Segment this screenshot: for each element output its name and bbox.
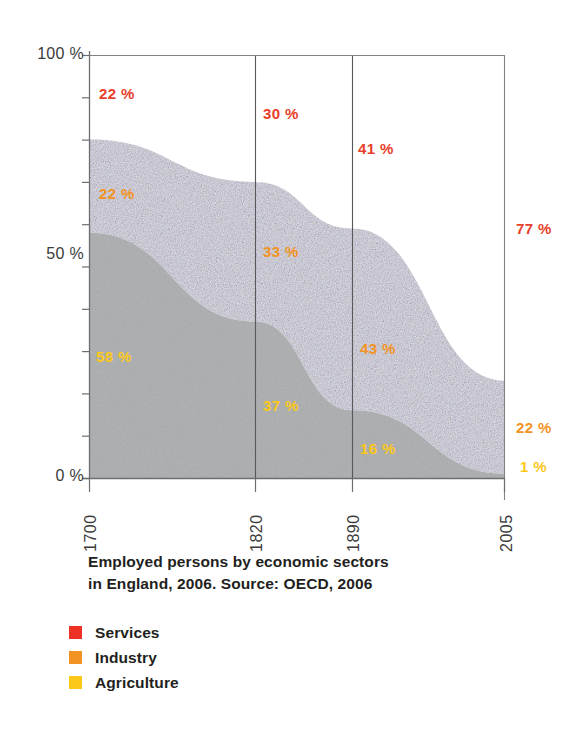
chart-canvas bbox=[0, 0, 577, 520]
plot-area: 100 % 50 % 0 % 1700 1820 1890 2005 22 % … bbox=[0, 0, 577, 520]
caption-line-2: in England, 2006. Source: OECD, 2006 bbox=[88, 573, 518, 595]
y-minor-ticks bbox=[82, 56, 89, 479]
legend-item-services: Services bbox=[69, 620, 179, 645]
x-ticks bbox=[90, 478, 505, 492]
value-label-industry-1820: 33 % bbox=[263, 243, 299, 260]
legend-swatch-industry-icon bbox=[69, 651, 82, 664]
x-tick-label-2005: 2005 bbox=[498, 514, 516, 552]
legend-swatch-services-icon bbox=[69, 626, 82, 639]
value-label-services-1820: 30 % bbox=[263, 105, 299, 122]
chart-legend: Services Industry Agriculture bbox=[69, 620, 179, 695]
legend-item-agriculture: Agriculture bbox=[69, 670, 179, 695]
y-tick-label-50: 50 % bbox=[14, 245, 84, 263]
chart-caption: Employed persons by economic sectors in … bbox=[88, 551, 518, 596]
value-label-services-1700: 22 % bbox=[99, 85, 135, 102]
legend-label-agriculture: Agriculture bbox=[95, 674, 179, 692]
y-tick-label-0: 0 % bbox=[14, 467, 84, 485]
value-label-industry-1890: 43 % bbox=[360, 340, 396, 357]
value-label-agriculture-1820: 37 % bbox=[263, 397, 299, 414]
x-tick-label-1890: 1890 bbox=[345, 514, 363, 552]
legend-label-industry: Industry bbox=[95, 649, 157, 667]
figure-stacked-area-chart: 100 % 50 % 0 % 1700 1820 1890 2005 22 % … bbox=[0, 0, 577, 753]
value-label-agriculture-1890: 16 % bbox=[360, 440, 396, 457]
value-label-industry-2005: 22 % bbox=[516, 419, 552, 436]
value-label-industry-1700: 22 % bbox=[99, 185, 135, 202]
value-label-agriculture-1700: 58 % bbox=[96, 348, 132, 365]
x-tick-label-1820: 1820 bbox=[248, 514, 266, 552]
caption-line-1: Employed persons by economic sectors bbox=[88, 551, 518, 573]
value-label-services-1890: 41 % bbox=[358, 140, 394, 157]
value-label-services-2005: 77 % bbox=[516, 220, 552, 237]
y-tick-label-100: 100 % bbox=[14, 45, 84, 63]
x-tick-label-1700: 1700 bbox=[82, 514, 100, 552]
value-label-agriculture-2005: 1 % bbox=[520, 458, 547, 475]
legend-label-services: Services bbox=[95, 624, 160, 642]
legend-item-industry: Industry bbox=[69, 645, 179, 670]
legend-swatch-agriculture-icon bbox=[69, 676, 82, 689]
